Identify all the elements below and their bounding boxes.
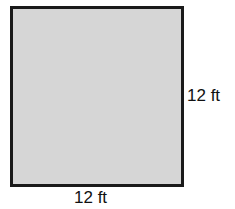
side-length-label-right: 12 ft <box>187 87 220 104</box>
square-shape <box>10 6 184 187</box>
side-length-label-bottom: 12 ft <box>74 189 107 206</box>
